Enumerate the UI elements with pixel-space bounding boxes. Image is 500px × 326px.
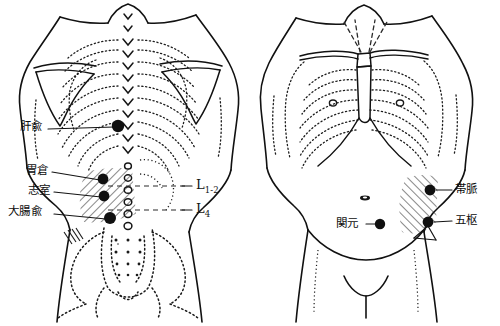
vertebra-l4-base: L	[196, 201, 205, 216]
label-vertebra-l4: L4	[196, 202, 210, 218]
nipple-right	[396, 100, 403, 106]
point-weicang	[98, 174, 109, 185]
label-guanyuan: 関元	[336, 218, 359, 230]
leader-ganshu	[48, 127, 114, 129]
label-vertebra-l1-2: L1-2	[196, 178, 219, 194]
nipple-left	[329, 100, 336, 106]
point-guanyuan	[375, 219, 385, 229]
leader-wushu	[434, 221, 452, 222]
vertebra-l1-2-base: L	[196, 177, 205, 192]
label-wushu: 五枢	[455, 215, 478, 227]
vertebra-l1-2-sub: 1-2	[205, 185, 219, 195]
point-zhishi	[99, 191, 110, 202]
point-ganshu	[112, 120, 124, 132]
navel	[360, 196, 370, 201]
label-dachangshu: 大腸兪	[8, 206, 42, 218]
acupoint-markers	[98, 120, 436, 229]
vertebra-l4-sub: 4	[205, 209, 211, 219]
point-wushu	[423, 217, 434, 228]
label-ganshu: 肝兪	[20, 121, 43, 133]
point-dachangshu	[104, 212, 116, 224]
acupoint-diagram: 肝兪 胃倉 志室 大腸兪 L1-2 L4 関元 帯脈 五枢	[0, 0, 500, 326]
label-daimai: 帯脈	[455, 184, 478, 196]
label-zhishi: 志室	[28, 185, 51, 197]
anatomy-illustration	[0, 0, 500, 326]
point-daimai	[425, 185, 436, 196]
label-weicang: 胃倉	[26, 165, 49, 177]
